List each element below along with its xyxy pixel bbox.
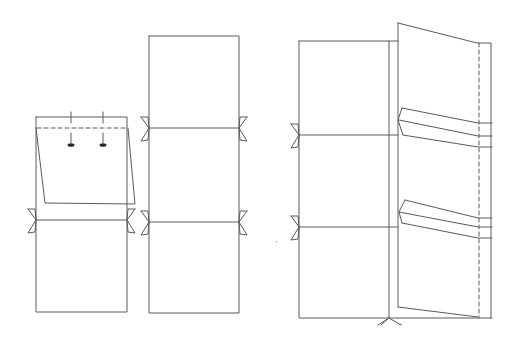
pin-head-icon	[68, 143, 75, 147]
outline	[399, 120, 492, 136]
pin-head-icon	[100, 143, 107, 147]
outline	[36, 117, 127, 312]
left-figure-flap-with-pins	[28, 112, 135, 312]
hinge-bowtie-icon	[141, 117, 149, 141]
stray-mark	[276, 241, 277, 242]
outline	[149, 36, 239, 313]
hinge-bowtie-icon	[239, 117, 247, 141]
hinge-bowtie-icon	[291, 124, 299, 148]
hinge-bowtie-icon	[239, 211, 247, 235]
stray-dot	[276, 241, 277, 242]
outline	[398, 108, 403, 135]
outline	[399, 200, 405, 223]
right-figure-pocket-panel	[291, 23, 492, 325]
hinge-bowtie-icon	[141, 211, 149, 235]
middle-figure-three-panels	[141, 36, 247, 313]
hinge-bowtie-icon	[291, 216, 299, 240]
outline	[398, 307, 478, 317]
outline	[299, 41, 389, 318]
outline	[36, 128, 135, 204]
outline	[398, 23, 491, 318]
diagram-canvas	[0, 0, 517, 341]
hinge-bowtie-icon	[378, 318, 401, 325]
hinge-bowtie-icon	[28, 209, 36, 233]
hinge-bowtie-icon	[127, 209, 135, 233]
